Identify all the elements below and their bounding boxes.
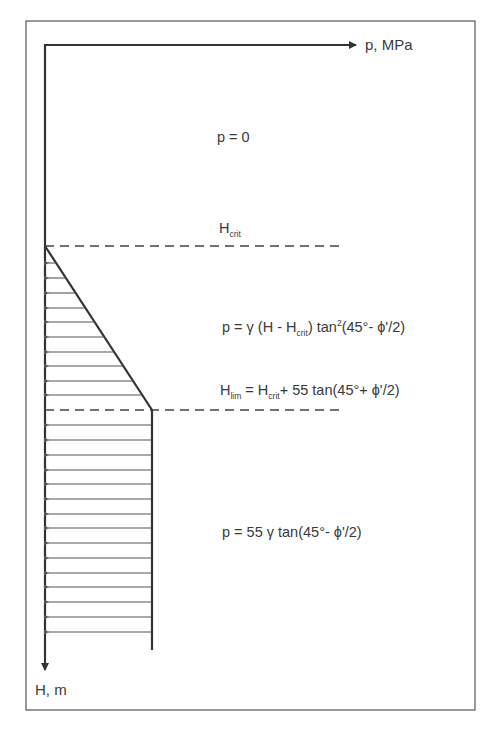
- pressure-diagram: [0, 0, 498, 739]
- zone-transition-formula: p = γ (H - Hcrit) tan2(45°- ϕ'/2): [222, 318, 405, 338]
- formula-sub: lim: [230, 391, 241, 401]
- h-axis-label: H, m: [35, 681, 67, 698]
- formula-part: p = γ (H - H: [222, 319, 297, 335]
- h-crit-main: H: [219, 220, 229, 236]
- zone-above-formula: p = 0: [217, 129, 250, 145]
- pressure-profile: [45, 246, 152, 650]
- formula-part: H: [220, 382, 230, 398]
- formula-sub: crit: [297, 328, 308, 338]
- h-lim-formula: Hlim = Hcrit+ 55 tan(45°+ ϕ'/2): [220, 382, 400, 401]
- h-crit-sub: crit: [229, 229, 240, 239]
- formula-sub: crit: [268, 391, 279, 401]
- h-crit-label: Hcrit: [219, 220, 241, 239]
- formula-part: = H: [241, 382, 268, 398]
- formula-part: ) tan: [308, 319, 337, 335]
- p-axis-label: p, MPa: [365, 36, 413, 53]
- hatch-arrows-rectangle: [48, 425, 151, 632]
- formula-part: + 55 tan(45°+ ϕ'/2): [280, 382, 400, 398]
- zone-limit-formula: p = 55 γ tan(45°- ϕ'/2): [222, 524, 362, 540]
- formula-part: (45°- ϕ'/2): [342, 319, 405, 335]
